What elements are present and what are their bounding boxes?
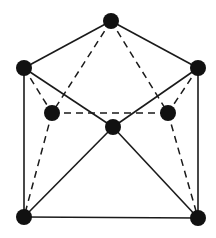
- nodes-group: [16, 13, 206, 226]
- node-bottom-right: [190, 210, 206, 226]
- node-left-upper: [16, 60, 32, 76]
- edge-top-right-upper-solid: [111, 21, 198, 68]
- edge-right-upper-center-solid: [113, 68, 198, 127]
- edge-bottom-left-bottom-right-solid: [24, 217, 198, 218]
- edge-left-inner-bottom-left-dashed: [24, 113, 52, 217]
- edge-top-left-inner-dashed: [52, 21, 111, 113]
- edge-right-upper-right-inner-dashed: [168, 68, 198, 113]
- node-top: [103, 13, 119, 29]
- node-left-inner: [44, 105, 60, 121]
- node-right-inner: [160, 105, 176, 121]
- node-right-upper: [190, 60, 206, 76]
- node-center: [105, 119, 121, 135]
- edge-left-upper-center-solid: [24, 68, 113, 127]
- edge-top-right-inner-dashed: [111, 21, 168, 113]
- edge-top-left-upper-solid: [24, 21, 111, 68]
- node-bottom-left: [16, 209, 32, 225]
- polyhedron-graph-diagram: [0, 0, 216, 238]
- edge-center-bottom-left-solid: [24, 127, 113, 217]
